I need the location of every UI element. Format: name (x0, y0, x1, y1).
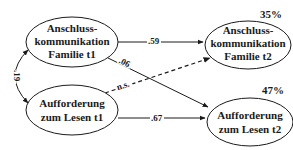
path-diagram: .59 .06 n.s. .67 .19 Anschluss- kommunik… (0, 0, 293, 150)
node-label-line: zum Lesen t2 (219, 123, 282, 135)
edge-label-67: .67 (151, 113, 163, 123)
node-label-line: Anschluss- (47, 22, 98, 34)
node-anschlusskommunikation-familie-t1: Anschluss- kommunikation Familie t1 (26, 17, 118, 67)
explained-variance-akf-t2: 35% (260, 8, 282, 20)
node-label-line: Familie t1 (48, 48, 95, 60)
node-label-line: Aufforderung (39, 97, 105, 109)
node-label-line: kommunikation (34, 35, 109, 47)
edge-label-19: .19 (12, 70, 22, 82)
node-aufforderung-zum-lesen-t1: Aufforderung zum Lesen t1 (26, 85, 118, 135)
node-label-line: Anschluss- (223, 24, 274, 36)
node-label-line: zum Lesen t1 (41, 111, 103, 123)
node-aufforderung-zum-lesen-t2: Aufforderung zum Lesen t2 (207, 98, 293, 146)
node-anschlusskommunikation-familie-t2: Anschluss- kommunikation Familie t2 (205, 21, 291, 69)
node-label-line: kommunikation (210, 37, 285, 49)
node-label-line: Aufforderung (217, 109, 283, 121)
node-label-line: Familie t2 (224, 50, 272, 62)
edge-label-59: .59 (148, 36, 160, 46)
explained-variance-azl-t2: 47% (262, 84, 284, 96)
